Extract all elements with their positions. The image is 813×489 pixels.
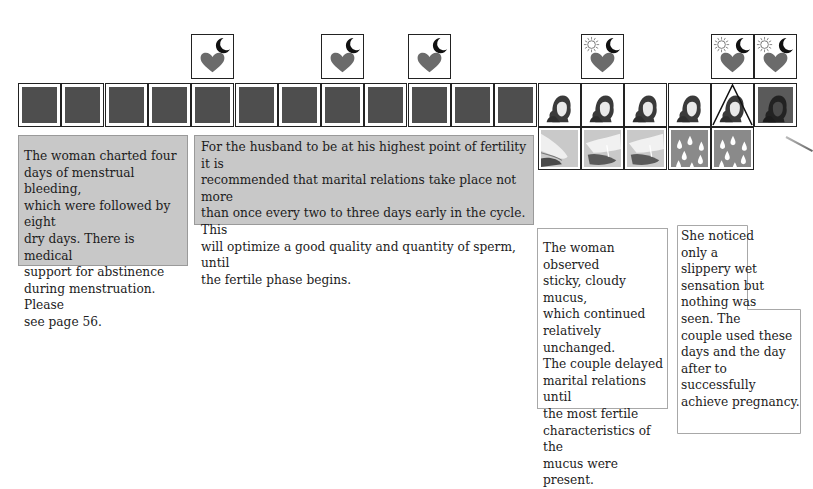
heart-moon-icon xyxy=(409,35,450,78)
day-cell-menstrual-bleeding xyxy=(148,83,191,127)
note-line: dry days. There is medical xyxy=(24,231,183,264)
day-cell-mucus-baby xyxy=(668,83,711,127)
note-line: only a xyxy=(681,245,801,262)
note-line: marital relations until xyxy=(543,373,663,406)
intercourse-stamp-heart-moon xyxy=(408,34,451,79)
baby-icon xyxy=(582,84,623,126)
dry-stamp xyxy=(239,87,274,123)
day-cell-dry xyxy=(191,83,234,127)
day-cell-mucus-baby xyxy=(538,83,581,127)
note-line: couple used these xyxy=(681,328,801,345)
day-cell-peak-baby xyxy=(711,83,754,127)
mucus-cell-sticky-cloudy-photo xyxy=(624,127,667,170)
day-cell-post-peak-baby xyxy=(754,83,797,127)
water-drops-icon xyxy=(714,130,751,167)
heart-sun-moon-icon xyxy=(755,35,796,78)
intercourse-stamp-heart-sun-moon xyxy=(711,34,754,79)
intercourse-stamp-heart-sun-moon xyxy=(754,34,797,79)
day-cell-dry xyxy=(278,83,321,127)
dry-stamp xyxy=(325,87,360,123)
intercourse-stamp-heart-sun-moon xyxy=(581,34,624,79)
menstrual-bleeding-stamp xyxy=(22,87,57,123)
day-cell-dry xyxy=(408,83,451,127)
heart-moon-icon xyxy=(192,35,233,78)
baby-icon xyxy=(539,84,580,126)
pointer-line xyxy=(786,136,813,152)
baby-icon xyxy=(625,84,666,126)
note-line: which continued xyxy=(543,306,663,323)
day-cell-dry xyxy=(235,83,278,127)
cervical-mucus-photo xyxy=(627,130,664,167)
note-line: during menstruation. Please xyxy=(24,281,183,314)
note-line: days of menstrual bleeding, xyxy=(24,165,183,198)
mucus-cell-slippery-drops xyxy=(711,127,754,170)
note-line: support for abstinence xyxy=(24,264,183,281)
dry-stamp xyxy=(195,87,230,123)
note-line: after to successfully xyxy=(681,361,801,394)
water-drops-icon xyxy=(671,130,708,167)
note-line: For the husband to be at his highest poi… xyxy=(201,139,529,172)
mucus-cell-sticky-cloudy-photo xyxy=(581,127,624,170)
day-cell-menstrual-bleeding xyxy=(18,83,61,127)
note-line: She noticed xyxy=(681,228,801,245)
day-cell-dry xyxy=(494,83,537,127)
day-cell-mucus-baby xyxy=(581,83,624,127)
heart-moon-icon xyxy=(322,35,363,78)
note-line: the fertile phase begins. xyxy=(201,272,529,289)
note-line: achieve pregnancy. xyxy=(681,394,801,411)
baby-icon xyxy=(669,84,710,126)
note-line: sticky, cloudy mucus, xyxy=(543,273,663,306)
intercourse-stamp-heart-moon xyxy=(321,34,364,79)
note-line: The couple delayed xyxy=(543,356,663,373)
note-line: relatively unchanged. xyxy=(543,323,663,356)
intercourse-stamp-heart-moon xyxy=(191,34,234,79)
note-line: sensation but xyxy=(681,278,801,295)
note-sticky-mucus: The woman observed sticky, cloudy mucus,… xyxy=(537,228,668,409)
note-line: recommended that marital relations take … xyxy=(201,172,529,205)
day-cell-dry xyxy=(364,83,407,127)
note-line: The woman observed xyxy=(543,240,663,273)
note-line: seen. The xyxy=(681,311,801,328)
mucus-cell-sticky-cloudy-photo xyxy=(538,127,581,170)
day-cell-mucus-baby xyxy=(624,83,667,127)
cervical-mucus-photo xyxy=(541,130,578,167)
dry-stamp xyxy=(282,87,317,123)
note-husband-fertility: For the husband to be at his highest poi… xyxy=(194,135,534,225)
note-line: The woman charted four xyxy=(24,148,183,165)
note-line: nothing was xyxy=(681,294,801,311)
mucus-cell-slippery-drops xyxy=(668,127,711,170)
day-cell-menstrual-bleeding xyxy=(105,83,148,127)
baby-icon xyxy=(755,84,796,126)
dry-stamp xyxy=(412,87,447,123)
menstrual-bleeding-stamp xyxy=(65,87,100,123)
dry-stamp xyxy=(368,87,403,123)
baby-icon xyxy=(712,84,753,126)
note-line: than once every two to three days early … xyxy=(201,205,529,238)
note-line: see page 56. xyxy=(24,314,183,331)
dry-stamp xyxy=(498,87,533,123)
note-line: will optimize a good quality and quantit… xyxy=(201,239,529,272)
heart-sun-moon-icon xyxy=(582,35,623,78)
menstrual-bleeding-stamp xyxy=(109,87,144,123)
note-line: slippery wet xyxy=(681,261,801,278)
day-cell-dry xyxy=(321,83,364,127)
dry-stamp xyxy=(455,87,490,123)
note-line: characteristics of the xyxy=(543,423,663,456)
note-slippery-sensation: She noticed only a slippery wet sensatio… xyxy=(677,225,801,434)
cervical-mucus-photo xyxy=(584,130,621,167)
heart-sun-moon-icon xyxy=(712,35,753,78)
day-cell-dry xyxy=(451,83,494,127)
note-line: which were followed by eight xyxy=(24,198,183,231)
day-cell-menstrual-bleeding xyxy=(61,83,104,127)
menstrual-bleeding-stamp xyxy=(152,87,187,123)
note-line: mucus were present. xyxy=(543,456,663,489)
note-line: days and the day xyxy=(681,344,801,361)
note-menstruation: The woman charted four days of menstrual… xyxy=(18,135,188,266)
note-line: the most fertile xyxy=(543,406,663,423)
